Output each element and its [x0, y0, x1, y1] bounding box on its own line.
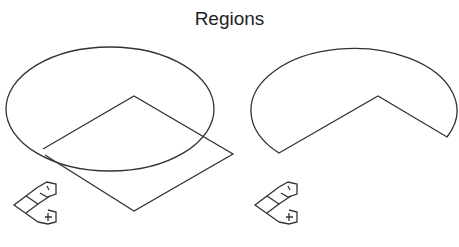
notched-region: [251, 48, 457, 153]
circle-region: [6, 47, 214, 171]
axis-orientation-icon: [14, 182, 56, 224]
right-panel: [251, 48, 457, 153]
diamond-region: [43, 96, 233, 211]
regions-canvas: [0, 0, 459, 247]
axis-orientation-icon: [255, 182, 297, 224]
